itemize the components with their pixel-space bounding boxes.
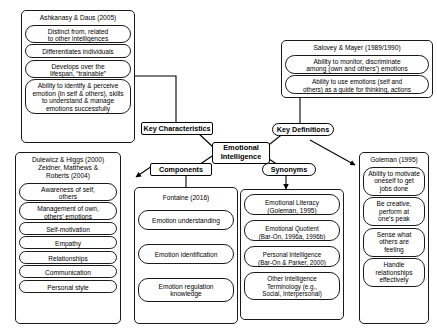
cluster-title: Fontaine (2016) xyxy=(135,188,237,204)
list-item: Self-motivation xyxy=(19,222,117,235)
list-item: Emotion identification xyxy=(138,244,234,264)
list-item: Empathy xyxy=(19,236,117,249)
hub-emotional-intelligence[interactable]: Emotional Intelligence xyxy=(212,142,270,164)
list-item: Emotion regulation knowledge xyxy=(138,278,234,302)
list-item: Communication xyxy=(19,265,117,278)
cluster-goleman: Goleman (1995) Ability to motivate onese… xyxy=(359,152,429,324)
cluster-dulewicz-higgs-zeidner: Dulewicz & Higgs (2000) Zeidner, Matthew… xyxy=(15,152,121,324)
list-item: Emotional Quotient (Bar-On, 1996a, 1996b… xyxy=(244,220,340,241)
list-item: Develops over the lifespan, “trainable” xyxy=(25,60,131,78)
list-item: Be creative, perform at one’s peak xyxy=(363,197,425,226)
hub-components[interactable]: Components xyxy=(150,163,212,176)
list-item: Ability to use emotions (self and others… xyxy=(285,75,429,94)
list-item: Distinct from, related to other intellig… xyxy=(25,25,131,43)
list-item: Personal Intelligence (Bar-On & Parker, … xyxy=(244,246,340,267)
list-item: Management of own, others’ emotions xyxy=(19,202,117,220)
list-item: Relationships xyxy=(19,251,117,264)
list-item: Ability to identify & perceive emotion (… xyxy=(25,79,131,114)
list-item: Ability to motivate oneself to get jobs … xyxy=(363,167,425,196)
list-item: Ability to monitor, discriminate among (… xyxy=(285,55,429,74)
cluster-fontaine: Fontaine (2016) Emotion understanding Em… xyxy=(134,187,238,324)
hub-synonyms[interactable]: Synonyms xyxy=(262,163,316,176)
list-item: Emotion understanding xyxy=(138,210,234,230)
diagram-canvas: Ashkanasy & Daus (2005) Distinct from, r… xyxy=(0,0,437,333)
cluster-synonyms-list: Emotional Literacy (Goleman, 1995) Emoti… xyxy=(240,189,344,320)
list-item: Handle relationships effectively xyxy=(363,258,425,287)
list-item: Personal style xyxy=(19,280,117,293)
list-item: Other Intelligence Terminology (e.g., So… xyxy=(244,272,340,300)
cluster-title: Dulewicz & Higgs (2000) Zeidner, Matthew… xyxy=(16,153,120,181)
cluster-title: Goleman (1995) xyxy=(360,153,428,165)
list-item: Differentiates individuals xyxy=(25,44,131,58)
cluster-title: Ashkanasy & Daus (2005) xyxy=(22,11,134,23)
list-item: Awareness of self, others xyxy=(19,183,117,201)
hub-key-definitions[interactable]: Key Definitions xyxy=(272,123,334,136)
cluster-ashkanasy-daus: Ashkanasy & Daus (2005) Distinct from, r… xyxy=(21,10,135,143)
hub-key-characteristics[interactable]: Key Characteristics xyxy=(141,122,213,135)
list-item: Emotional Literacy (Goleman, 1995) xyxy=(244,194,340,215)
list-item: Sense what others are feeling xyxy=(363,228,425,257)
wire-keydef-to-goleman xyxy=(310,140,355,165)
cluster-salovey-mayer: Salovey & Mayer (1989/1990) Ability to m… xyxy=(281,40,433,98)
cluster-title: Salovey & Mayer (1989/1990) xyxy=(282,41,432,53)
